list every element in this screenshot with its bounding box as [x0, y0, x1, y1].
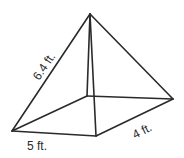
base-edge-front: [12, 131, 96, 136]
lateral-edge-back-right: [90, 14, 173, 99]
pyramid-diagram: 6.4 ft. 5 ft. 4 ft.: [0, 0, 184, 158]
base-width-label: 4 ft.: [130, 120, 154, 142]
base-edge-back: [87, 96, 173, 99]
slant-edge-label: 6.4 ft.: [30, 50, 58, 83]
lateral-edge-back-left: [87, 14, 90, 96]
base-length-label: 5 ft.: [27, 139, 47, 153]
lateral-edge-front-right: [90, 14, 96, 136]
